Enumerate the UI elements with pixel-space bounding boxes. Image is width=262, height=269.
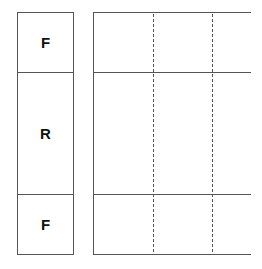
cell-label: F [41,34,50,51]
dashed-line-1 [153,14,154,252]
cell-top: F [17,12,74,73]
grid-left-border [93,12,94,255]
grid-line-top [93,12,251,13]
cell-label: R [40,125,51,142]
grid-line-bottom [93,254,251,255]
cell-label: F [41,216,50,233]
cell-middle: R [17,72,74,195]
grid-line-upper [93,72,251,73]
grid-line-lower [93,194,251,195]
dashed-line-2 [212,14,213,252]
cell-bottom: F [17,194,74,255]
